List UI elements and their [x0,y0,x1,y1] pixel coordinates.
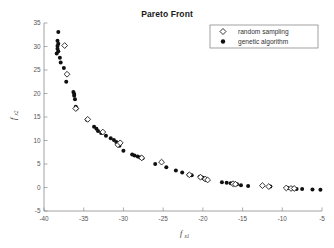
y-tick-label: 0 [37,184,41,191]
y-tick-label: 35 [33,19,41,26]
data-point-genetic-algorithm [153,162,157,166]
data-point-genetic-algorithm [174,169,178,173]
x-tick-label: -35 [79,215,89,222]
data-point-random-sampling [266,184,272,190]
y-axis-title-subscript: x2 [13,110,19,116]
x-axis-title-subscript: x1 [184,233,190,239]
x-tick-label: -30 [119,215,129,222]
x-tick-label: -10 [278,215,288,222]
data-point-genetic-algorithm [121,149,125,153]
x-tick-label: -40 [39,215,49,222]
pareto-front-scatter-plot: -40-35-30-25-20-15-10-5-505101520253035f… [0,0,334,248]
data-point-genetic-algorithm [73,97,77,101]
data-point-genetic-algorithm [62,66,66,70]
legend-label-random-sampling: random sampling [238,28,289,36]
data-point-genetic-algorithm [246,184,250,188]
y-tick-label: -5 [35,207,41,214]
y-tick-label: 5 [37,160,41,167]
data-point-genetic-algorithm [318,188,322,192]
x-axis-title: f [180,229,184,238]
figure-container: Pareto Front -40-35-30-25-20-15-10-5-505… [0,0,334,248]
x-tick-label: -25 [159,215,169,222]
data-point-genetic-algorithm [239,183,243,187]
data-point-genetic-algorithm [59,60,63,64]
data-point-random-sampling [62,43,68,49]
y-tick-label: 25 [33,66,41,73]
data-point-genetic-algorithm [310,187,314,191]
data-point-genetic-algorithm [64,80,68,84]
data-point-random-sampling [260,183,266,189]
x-tick-label: -5 [319,215,325,222]
data-point-genetic-algorithm [300,187,304,191]
axis-frame [44,23,322,211]
data-point-genetic-algorithm [104,134,108,138]
data-point-genetic-algorithm [220,180,224,184]
data-point-genetic-algorithm [55,52,59,56]
data-point-genetic-algorithm [225,181,229,185]
data-point-random-sampling [64,71,70,77]
data-point-genetic-algorithm [58,56,62,60]
data-point-genetic-algorithm [180,170,184,174]
data-point-genetic-algorithm [164,165,168,169]
data-point-genetic-algorithm [56,30,60,34]
x-tick-label: -15 [238,215,248,222]
legend-marker-genetic-algorithm [221,39,225,43]
data-point-random-sampling [73,106,79,112]
data-point-random-sampling [159,159,165,165]
y-tick-label: 10 [33,137,41,144]
y-tick-label: 15 [33,113,41,120]
legend-label-genetic-algorithm: genetic algorithm [238,38,289,46]
y-axis-title: f [9,116,18,120]
y-tick-label: 20 [33,90,41,97]
y-axis-title-group: fx2 [9,110,19,120]
y-tick-label: 30 [33,43,41,50]
x-tick-label: -20 [198,215,208,222]
